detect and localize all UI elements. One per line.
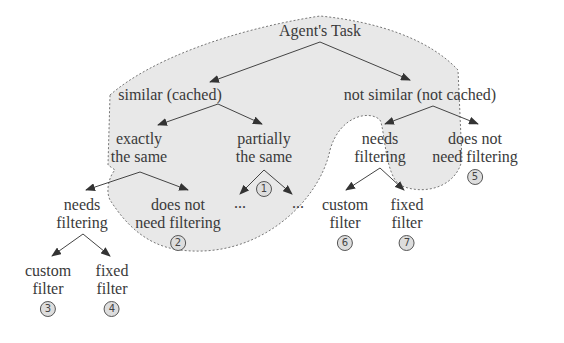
node-label: custom — [322, 196, 368, 214]
node-label: custom — [25, 262, 71, 280]
node-not-similar: not similar (not cached) — [344, 86, 496, 104]
number-badge: 6 — [337, 235, 353, 251]
number-badge: 4 — [104, 301, 120, 317]
node-label: fixed — [391, 196, 424, 214]
node-label: filter — [96, 280, 129, 298]
node-partially-same: partiallythe same — [236, 130, 292, 166]
node-label: the same — [111, 148, 167, 166]
node-label: needs — [354, 130, 406, 148]
node-right-custom-filter: customfilter6 — [322, 196, 368, 251]
ellipsis: ... — [292, 194, 304, 211]
node-right-fixed-filter: fixedfilter7 — [391, 196, 424, 251]
node-label: filter — [391, 214, 424, 232]
node-label: need filtering — [432, 148, 518, 166]
number-badge: 2 — [170, 235, 186, 251]
ellipsis: ... — [234, 194, 246, 211]
node-label: filter — [322, 214, 368, 232]
node-label: fixed — [96, 262, 129, 280]
number-badge: 5 — [467, 169, 483, 185]
node-label: filtering — [56, 214, 108, 232]
node-agents-task: Agent's Task — [279, 22, 361, 40]
node-left-custom-filter: customfilter3 — [25, 262, 71, 317]
node-label: does not — [135, 196, 221, 214]
node-label: filter — [25, 280, 71, 298]
number-badge: 7 — [399, 235, 415, 251]
node-label: partially — [236, 130, 292, 148]
node-left-no-filtering: does notneed filtering2 — [135, 196, 221, 251]
node-left-fixed-filter: fixedfilter4 — [96, 262, 129, 317]
node-label: needs — [56, 196, 108, 214]
node-left-needs-filtering: needsfiltering — [56, 196, 108, 232]
number-badge: 1 — [256, 181, 272, 197]
node-label: similar (cached) — [118, 86, 222, 103]
node-label: not similar (not cached) — [344, 86, 496, 103]
node-similar-cached: similar (cached) — [118, 86, 222, 104]
node-label: Agent's Task — [279, 22, 361, 39]
node-right-no-filtering: does notneed filtering5 — [432, 130, 518, 185]
node-label: exactly — [111, 130, 167, 148]
node-label: need filtering — [135, 214, 221, 232]
node-label: filtering — [354, 148, 406, 166]
badge-1: 1 — [256, 178, 272, 197]
ellipsis-left: ... — [234, 194, 246, 212]
node-label: the same — [236, 148, 292, 166]
number-badge: 3 — [40, 301, 56, 317]
node-right-needs-filtering: needsfiltering — [354, 130, 406, 166]
ellipsis-right: ... — [292, 194, 304, 212]
node-exactly-same: exactlythe same — [111, 130, 167, 166]
node-label: does not — [432, 130, 518, 148]
